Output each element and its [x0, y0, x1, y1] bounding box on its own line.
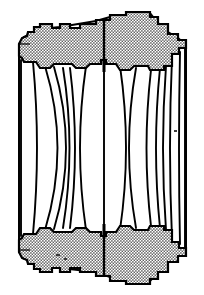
element-9-rear-surface [179, 52, 180, 244]
speck-lower-left [56, 254, 60, 256]
lens-diagram-svg: Lens cross-section diagram [0, 0, 204, 295]
speck-right [174, 130, 177, 132]
lens-cross-section-figure: Lens cross-section diagram [0, 0, 204, 295]
speck-lower-left-2 [64, 258, 67, 260]
